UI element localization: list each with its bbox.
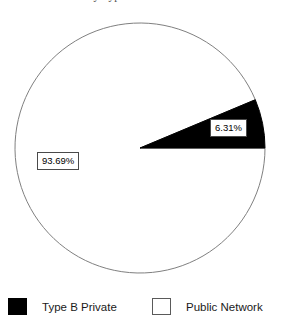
slice-value-label-type-b-private: 6.31% [210, 119, 247, 137]
chart-legend: Type B Private Public Network [0, 292, 284, 321]
pie-chart-figure: Market Share by Type B Private vs Public… [0, 0, 284, 321]
legend-swatch-hollow-icon [152, 298, 171, 315]
pie-plot-area [0, 0, 284, 284]
slice-value-label-public-network: 93.69% [37, 152, 79, 170]
legend-item-type-b-private[interactable]: Type B Private [8, 292, 117, 321]
legend-label-public-network: Public Network [186, 301, 263, 313]
legend-swatch-filled-icon [8, 298, 27, 315]
pie-svg [0, 0, 284, 284]
legend-label-type-b-private: Type B Private [42, 301, 117, 313]
legend-item-public-network[interactable]: Public Network [152, 292, 263, 321]
